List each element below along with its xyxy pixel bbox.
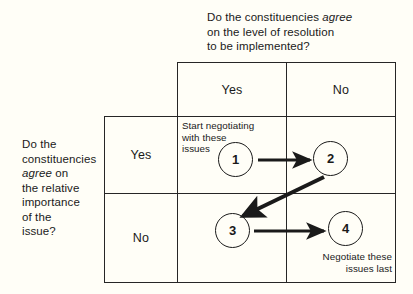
quadrant-number-4: 4	[328, 211, 363, 246]
column-header-no: No	[286, 62, 396, 117]
row-question-label: Do the constituencies agree on the relat…	[22, 137, 108, 239]
row-header-yes: Yes	[104, 116, 178, 194]
column-question-line1-prefix: Do the constituencies	[207, 11, 322, 23]
column-question-emphasis: agree	[322, 11, 352, 23]
quadrant-number-2: 2	[313, 141, 348, 176]
quadrant-number-3: 3	[215, 213, 250, 248]
row-header-no: No	[104, 193, 178, 283]
column-question-label: Do the constituencies agree on the level…	[207, 10, 407, 54]
row-question-line1: Do the constituencies	[22, 138, 96, 165]
column-header-yes: Yes	[177, 62, 287, 117]
diagram-canvas: Do the constituencies agree on the level…	[0, 0, 413, 294]
column-question-rest: on the level of resolution to be impleme…	[207, 26, 334, 53]
row-question-emphasis: agree	[22, 167, 52, 179]
quadrant-number-1: 1	[218, 142, 253, 177]
quadrant-4-note: Negotiate these issues last	[300, 251, 392, 274]
